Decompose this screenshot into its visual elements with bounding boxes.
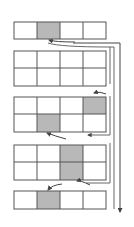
curved-arrow-3a [94, 92, 106, 94]
curved-arrow-3b [47, 133, 66, 139]
block-3 [14, 97, 106, 132]
grid-flow-diagram [0, 0, 134, 227]
curved-arrow-1 [49, 40, 75, 42]
block-4 [14, 145, 106, 180]
block-5 [14, 191, 106, 209]
route-line-inner [110, 47, 114, 209]
curved-arrow-5 [48, 184, 62, 190]
route-line-outer [48, 43, 110, 84]
block-2 [14, 51, 106, 86]
block-1 [14, 22, 106, 39]
